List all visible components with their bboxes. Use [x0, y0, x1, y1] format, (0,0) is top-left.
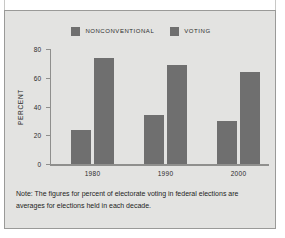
- y-axis-title: PERCENT: [14, 49, 26, 165]
- bar[interactable]: [144, 115, 164, 164]
- y-axis-tick: 80: [46, 49, 50, 50]
- bar[interactable]: [94, 58, 114, 164]
- y-axis-tick: 60: [46, 78, 50, 79]
- bar[interactable]: [71, 130, 91, 165]
- plot-area: 020406080 198019902000: [50, 49, 269, 165]
- legend-label-voting: VOTING: [184, 27, 210, 36]
- y-axis-tick-label: 40: [34, 103, 41, 110]
- bar[interactable]: [240, 72, 260, 164]
- y-axis-tick-label: 0: [37, 161, 41, 168]
- chart-legend: NONCONVENTIONAL VOTING: [5, 21, 277, 41]
- y-axis-tick: 40: [46, 107, 50, 108]
- bar-group: [71, 49, 114, 164]
- legend-swatch-nonconventional: [71, 27, 80, 36]
- bar[interactable]: [217, 121, 237, 164]
- x-axis-tick-label: 1990: [136, 170, 196, 177]
- chart-note: Note: The figures for percent of elector…: [16, 188, 266, 211]
- y-axis-tick: 20: [46, 135, 50, 136]
- bar-group: [144, 49, 187, 164]
- y-axis-tick-label: 20: [34, 132, 41, 139]
- legend-swatch-voting: [170, 27, 179, 36]
- bar-group: [217, 49, 260, 164]
- legend-entry-voting[interactable]: VOTING: [170, 27, 210, 36]
- figure: NONCONVENTIONAL VOTING PERCENT 020406080…: [0, 0, 285, 238]
- y-axis-tick-label: 80: [34, 46, 41, 53]
- bar[interactable]: [167, 65, 187, 164]
- x-axis-line: [50, 164, 269, 166]
- y-axis-tick-label: 60: [34, 74, 41, 81]
- legend-entry-nonconventional[interactable]: NONCONVENTIONAL: [71, 27, 154, 36]
- legend-label-nonconventional: NONCONVENTIONAL: [85, 27, 154, 36]
- x-axis-tick-label: 1980: [63, 170, 123, 177]
- y-axis-tick: 0: [46, 164, 50, 165]
- y-axis-line: [50, 49, 51, 165]
- figure-top-strip: [4, 0, 276, 10]
- x-axis-tick-label: 2000: [209, 170, 269, 177]
